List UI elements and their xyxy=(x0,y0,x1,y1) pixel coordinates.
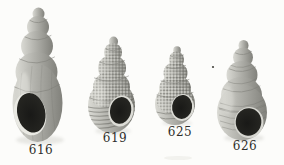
specimen-label-625: 625 xyxy=(162,126,198,139)
shell-626-figure xyxy=(217,40,267,142)
specimen-label-616: 616 xyxy=(23,144,59,157)
ink-speck xyxy=(212,66,214,68)
highlight xyxy=(222,86,234,114)
specimen-label-619: 619 xyxy=(97,132,133,145)
specimen-plate: 616 619 625 626 xyxy=(0,0,284,165)
specimen-label-626: 626 xyxy=(227,140,263,153)
shell-625-figure xyxy=(155,46,196,126)
shell-616-figure xyxy=(10,8,64,145)
shell-619-figure xyxy=(88,37,136,135)
highlight xyxy=(95,83,105,107)
page-smudge xyxy=(164,156,192,160)
